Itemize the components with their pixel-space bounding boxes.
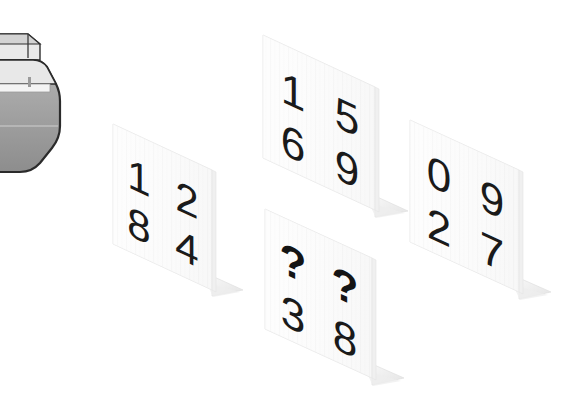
card-right-thickness [519, 170, 523, 294]
corner-object-tab [28, 77, 31, 87]
isometric-card-scene: 1 2 8 4 1 5 6 9 ? ? 3 8 [0, 0, 573, 399]
card-top-middle-thickness [375, 87, 379, 212]
card-bottom-middle-thickness [372, 258, 376, 380]
corner-object-recess [0, 84, 50, 92]
card-left-thickness [212, 170, 216, 292]
